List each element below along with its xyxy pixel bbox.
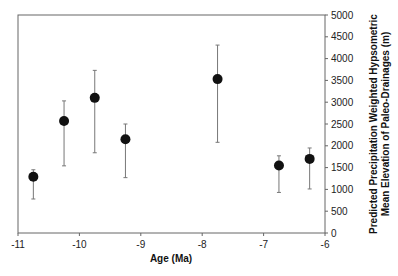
y-tick-label: 2000 <box>331 140 354 151</box>
data-markers <box>28 74 314 182</box>
y-tick-label: 4500 <box>331 31 354 42</box>
y-tick-label: 500 <box>331 206 348 217</box>
y-tick-label: 0 <box>331 228 337 239</box>
error-bars <box>31 45 311 199</box>
y-axis-title-line-2: Mean Elevation of Paleo-Drainages (m) <box>380 32 391 217</box>
x-tick-label: -10 <box>72 239 87 250</box>
y-axis-title: Predicted Precipitation Weighted Hypsome… <box>368 14 391 234</box>
data-point-marker <box>90 93 100 103</box>
data-point-marker <box>274 160 284 170</box>
x-axis-title: Age (Ma) <box>150 253 192 264</box>
data-point-marker <box>120 134 130 144</box>
x-tick-label: -6 <box>321 239 330 250</box>
y-axis-title-line-1: Predicted Precipitation Weighted Hypsome… <box>368 14 379 234</box>
data-point-marker <box>305 154 315 164</box>
y-axis-ticks: 0500100015002000250030003500400045005000 <box>325 10 354 239</box>
data-point-marker <box>59 116 69 126</box>
y-tick-label: 1000 <box>331 184 354 195</box>
y-tick-label: 3500 <box>331 75 354 86</box>
y-tick-label: 1500 <box>331 162 354 173</box>
data-point-marker <box>28 172 38 182</box>
y-tick-label: 3000 <box>331 97 354 108</box>
x-tick-label: -8 <box>198 239 207 250</box>
x-tick-label: -11 <box>11 239 25 250</box>
data-point-marker <box>213 74 223 84</box>
x-tick-label: -9 <box>136 239 145 250</box>
y-tick-label: 4000 <box>331 53 354 64</box>
scatter-chart: -11-10-9-8-7-6 0500100015002000250030003… <box>0 0 398 276</box>
y-tick-label: 2500 <box>331 119 354 130</box>
y-tick-label: 5000 <box>331 10 354 21</box>
x-axis-ticks: -11-10-9-8-7-6 <box>11 233 330 250</box>
x-tick-label: -7 <box>259 239 268 250</box>
